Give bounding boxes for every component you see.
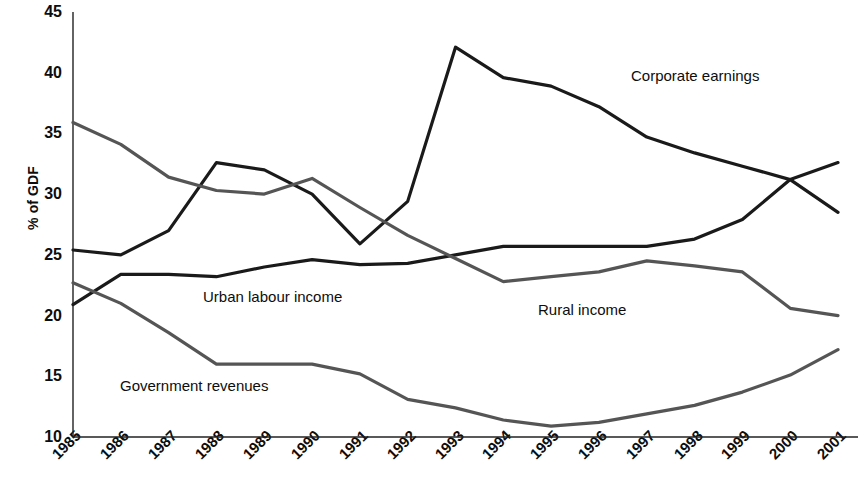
series-paths <box>73 47 838 426</box>
series-line-rural-income <box>73 123 838 316</box>
series-line-government-revenues <box>73 283 838 426</box>
series-label-rural-income: Rural income <box>538 302 626 317</box>
line-chart: % of GDF 4540353025201510 19851986198719… <box>0 0 860 496</box>
series-label-government-revenues: Government revenues <box>120 378 268 393</box>
series-label-corporate-earnings: Corporate earnings <box>631 68 759 83</box>
series-label-urban-labour-income: Urban labour income <box>203 289 342 304</box>
